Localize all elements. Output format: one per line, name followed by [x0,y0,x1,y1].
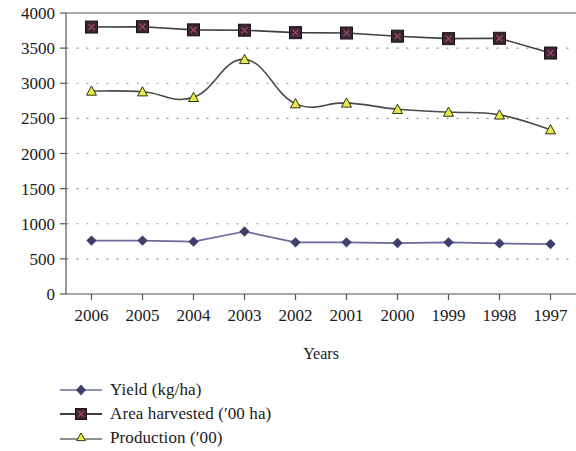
y-tick-label: 2500 [21,109,55,128]
x-tick-label: 2004 [177,306,212,325]
data-point-square-x [239,24,251,36]
x-tick-label: 2001 [330,306,364,325]
plot-background [66,13,576,294]
legend-label-area-harvested: Area harvested (′00 ha) [104,404,271,424]
legend-item-production: Production (′00) [58,426,478,450]
data-point-square-x [290,27,302,39]
data-point-square-x [188,24,200,36]
data-point-square-x [392,30,404,42]
x-axis-ticks [92,294,551,300]
y-tick-label: 3000 [21,74,55,93]
data-point-square-x [545,47,557,59]
legend-label-production: Production (′00) [104,428,223,448]
x-axis-labels: 2006200520042003200220012000199919981997 [75,306,569,325]
x-tick-label: 2005 [126,306,160,325]
data-point-square-x [341,27,353,39]
y-tick-label: 1500 [21,180,55,199]
legend-marker-diamond [58,379,104,401]
y-tick-label: 500 [30,250,56,269]
data-point-square-x [494,32,506,44]
data-point-square-x [86,21,98,33]
y-tick-label: 4000 [21,4,55,23]
data-point-square-x [137,21,149,33]
legend-label-yield: Yield (kg/ha) [104,380,201,400]
y-tick-label: 3500 [21,39,55,58]
y-axis-ticks: 40003500300025002000150010005000 [21,4,66,304]
y-tick-label: 0 [47,285,56,304]
legend-marker-square-x [58,403,104,425]
x-tick-label: 1998 [483,306,517,325]
x-tick-label: 2000 [381,306,415,325]
chart-container: 40003500300025002000150010005000 2006200… [0,0,576,451]
y-tick-label: 1000 [21,215,55,234]
x-tick-label: 2006 [75,306,109,325]
data-point-square-x [443,33,455,45]
legend-marker-triangle [58,427,104,449]
legend-item-area-harvested: Area harvested (′00 ha) [58,402,478,426]
legend-item-yield: Yield (kg/ha) [58,378,478,402]
x-tick-label: 2002 [279,306,313,325]
x-axis-title: Years [303,345,339,362]
y-tick-label: 2000 [21,145,55,164]
x-tick-label: 2003 [228,306,262,325]
chart-legend: Yield (kg/ha) Area harvested (′00 ha) Pr… [58,378,478,450]
x-tick-label: 1997 [534,306,569,325]
x-tick-label: 1999 [432,306,466,325]
